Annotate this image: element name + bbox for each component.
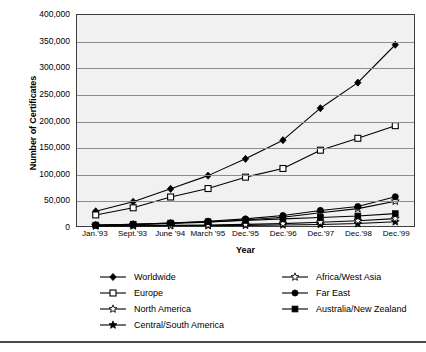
open-star-small-icon — [280, 270, 310, 284]
gridline — [77, 42, 414, 43]
gridline — [77, 68, 414, 69]
filled-square-icon — [280, 302, 310, 316]
x-axis-tick-label: Sept.'93 — [118, 229, 147, 239]
filled-diamond-icon — [98, 270, 128, 284]
legend-item[interactable]: Far East — [280, 286, 350, 300]
plot-series-canvas — [77, 15, 414, 226]
legend-label: Australia/New Zealand — [310, 304, 407, 314]
y-axis-tick-label: 100,000 — [39, 169, 70, 178]
filled-circle-icon — [280, 286, 310, 300]
gridline — [77, 95, 414, 96]
y-axis-tick-label: 350,000 — [39, 36, 70, 45]
x-axis-tick-label: Dec.'98 — [345, 229, 372, 239]
y-axis-tick-label: 300,000 — [39, 63, 70, 72]
y-axis-tick-label: 200,000 — [39, 116, 70, 125]
x-axis-tick-label: Dec.'99 — [383, 229, 410, 239]
y-axis-tick-labels: 400,000350,000300,000250,000200,000150,0… — [16, 14, 73, 227]
legend-label: North America — [128, 304, 191, 314]
filled-star-icon — [98, 318, 128, 332]
legend-item[interactable]: Central/South America — [98, 318, 224, 332]
open-square-icon — [98, 286, 128, 300]
x-axis-tick-labels: Jan.'93Sept.'93June '94March '95Dec.'95D… — [76, 229, 415, 243]
gridline — [77, 122, 414, 123]
legend-label: Europe — [128, 288, 163, 298]
y-axis-tick-label: 150,000 — [39, 143, 70, 152]
x-axis-tick-label: March '95 — [190, 229, 225, 239]
series-europe — [93, 123, 399, 218]
legend-label: Central/South America — [128, 320, 224, 330]
chart-legend: WorldwideEuropeNorth AmericaCentral/Sout… — [98, 270, 408, 332]
legend-label: Africa/West Asia — [310, 272, 381, 282]
open-star-icon — [98, 302, 128, 316]
x-axis-title: Year — [76, 245, 415, 255]
chart-figure: Number of Certificates 400,000350,000300… — [0, 0, 426, 352]
legend-label: Worldwide — [128, 272, 176, 282]
x-axis-tick-label: Dec.'96 — [270, 229, 297, 239]
gridline — [77, 201, 414, 202]
bottom-divider — [0, 341, 426, 343]
gridline — [77, 175, 414, 176]
x-axis-tick-label: Jan.'93 — [82, 229, 108, 239]
legend-item[interactable]: Worldwide — [98, 270, 176, 284]
y-axis-tick-label: 250,000 — [39, 89, 70, 98]
legend-item[interactable]: North America — [98, 302, 191, 316]
y-axis-tick-label: 0 — [65, 223, 70, 232]
legend-label: Far East — [310, 288, 350, 298]
plot-area — [76, 14, 415, 227]
y-axis-tick-label: 50,000 — [44, 196, 70, 205]
x-axis-tick-label: Dec.'95 — [232, 229, 259, 239]
legend-item[interactable]: Africa/West Asia — [280, 270, 381, 284]
y-axis-tick-label: 400,000 — [39, 10, 70, 19]
x-axis-tick-label: June '94 — [155, 229, 185, 239]
legend-item[interactable]: Australia/New Zealand — [280, 302, 407, 316]
x-axis-tick-label: Dec.'97 — [307, 229, 334, 239]
legend-item[interactable]: Europe — [98, 286, 163, 300]
gridline — [77, 148, 414, 149]
